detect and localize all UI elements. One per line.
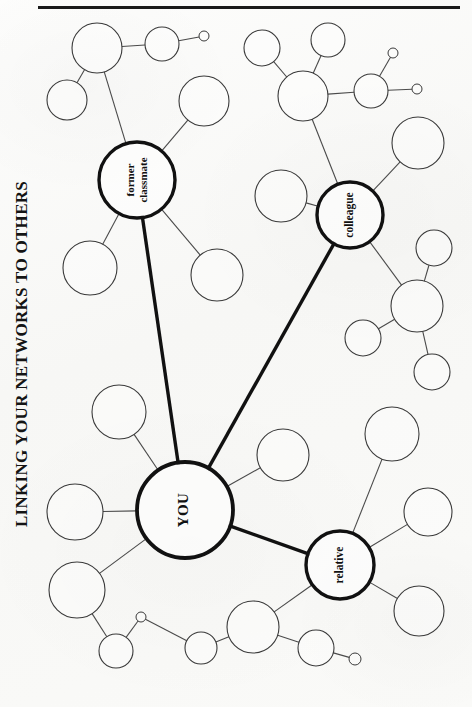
network-edge: [388, 89, 412, 90]
blank-contact-node[interactable]: [412, 84, 422, 94]
blank-contact-node[interactable]: [179, 76, 229, 126]
network-edge: [306, 203, 318, 206]
network-edge: [312, 119, 338, 184]
network-edge: [424, 265, 429, 281]
blank-contact-node[interactable]: [349, 653, 361, 665]
network-edge: [423, 331, 428, 354]
hub-node-colleague[interactable]: colleague: [317, 182, 383, 248]
blank-contact-node[interactable]: [47, 80, 87, 120]
network-edge: [161, 209, 200, 255]
blank-contact-node[interactable]: [278, 71, 328, 121]
network-edge: [274, 62, 287, 77]
network-edge: [373, 162, 400, 191]
network-edge: [179, 37, 199, 41]
network-edge: [77, 70, 85, 83]
hub-node-former-classmate[interactable]: formerclassmate: [99, 142, 175, 218]
blank-contact-node[interactable]: [391, 280, 443, 332]
network-edge: [103, 214, 119, 245]
diagram-page: LINKING YOUR NETWORKS TO OTHERS YOUforme…: [0, 0, 472, 707]
blank-contact-node[interactable]: [244, 30, 280, 66]
network-edge: [227, 468, 260, 487]
network-edge: [370, 242, 402, 285]
network-diagram: YOUformerclassmatecolleaguerelative: [0, 0, 472, 707]
network-edge: [328, 92, 354, 94]
network-edge: [380, 57, 391, 76]
network-edge: [216, 637, 229, 642]
blank-contact-node[interactable]: [298, 630, 334, 666]
blank-contact-node[interactable]: [392, 117, 444, 169]
network-edge: [369, 582, 397, 598]
blank-nodes-layer: [47, 23, 452, 668]
primary-network-edge: [228, 525, 309, 554]
network-edge: [145, 619, 186, 640]
blank-contact-node[interactable]: [255, 170, 307, 222]
blank-contact-node[interactable]: [257, 429, 309, 481]
primary-network-edge: [142, 216, 178, 465]
blank-contact-node[interactable]: [354, 74, 388, 108]
blank-contact-node[interactable]: [416, 230, 452, 266]
blank-contact-node[interactable]: [345, 320, 381, 356]
blank-contact-node[interactable]: [199, 31, 209, 41]
network-edge: [369, 524, 407, 547]
network-edge: [313, 56, 321, 74]
blank-contact-node[interactable]: [49, 562, 105, 618]
hub-node-you[interactable]: YOU: [137, 462, 233, 558]
network-edge: [92, 614, 107, 637]
hub-node-relative[interactable]: relative: [306, 531, 374, 599]
blank-contact-node[interactable]: [365, 407, 419, 461]
blank-contact-node[interactable]: [311, 23, 345, 57]
network-edge: [333, 653, 349, 657]
blank-contact-node[interactable]: [99, 634, 133, 668]
network-edge: [103, 511, 137, 512]
blank-contact-node[interactable]: [404, 488, 452, 536]
hub-node-label: formerclassmate: [123, 157, 148, 202]
network-edge: [134, 434, 158, 470]
blank-contact-node[interactable]: [414, 354, 450, 390]
network-edge: [378, 319, 394, 329]
blank-contact-node[interactable]: [136, 612, 146, 622]
network-edge: [122, 45, 145, 46]
blank-contact-node[interactable]: [63, 241, 117, 295]
network-edge: [278, 635, 299, 642]
blank-contact-node[interactable]: [191, 249, 243, 301]
blank-contact-node[interactable]: [92, 385, 146, 439]
network-edge: [274, 585, 312, 612]
network-edge: [100, 539, 147, 574]
hub-node-label: YOU: [175, 493, 191, 528]
network-edge: [104, 72, 126, 144]
hub-node-label: colleague: [343, 192, 356, 237]
blank-contact-node[interactable]: [145, 27, 179, 61]
blank-contact-node[interactable]: [185, 632, 217, 664]
blank-contact-node[interactable]: [47, 484, 103, 540]
hub-node-label: relative: [333, 547, 345, 584]
blank-contact-node[interactable]: [72, 23, 122, 73]
blank-contact-node[interactable]: [227, 601, 279, 653]
network-edge: [353, 459, 383, 533]
blank-contact-node[interactable]: [388, 48, 398, 58]
network-edge: [126, 621, 138, 637]
network-edge: [162, 120, 188, 151]
blank-contact-node[interactable]: [394, 586, 444, 636]
